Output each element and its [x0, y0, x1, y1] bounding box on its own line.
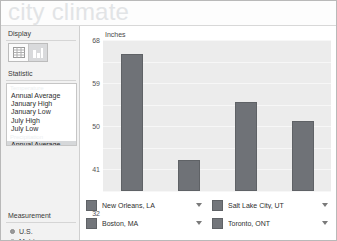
plot-region: 685950413223145 — [103, 40, 331, 192]
legend-label: Boston, MA — [102, 220, 196, 227]
legend-label: New Orleans, LA — [102, 202, 196, 209]
y-axis-tick-label: 68 — [92, 40, 100, 41]
radio-us[interactable]: U.S. — [10, 228, 33, 235]
list-group-header: Temperature — [7, 84, 76, 92]
gridline: 68 — [103, 40, 331, 41]
chevron-down-icon[interactable] — [322, 203, 328, 207]
statistic-list[interactable]: Temperature Annual Average January High … — [6, 83, 77, 146]
bar[interactable] — [292, 121, 314, 191]
bar[interactable] — [178, 160, 200, 191]
display-section-label: Display — [8, 30, 31, 37]
chevron-down-icon[interactable] — [196, 221, 202, 225]
statistic-divider — [6, 80, 76, 81]
legend-swatch-icon — [86, 200, 97, 211]
y-axis-tick-label: 41 — [92, 169, 100, 170]
list-group-header: Precipitation — [7, 133, 76, 141]
display-divider — [6, 40, 76, 41]
y-axis-title: Inches — [105, 31, 126, 38]
measurement-divider — [6, 222, 76, 223]
bar[interactable] — [235, 102, 257, 191]
legend-item[interactable]: New Orleans, LA — [86, 198, 206, 212]
title-bar: city climate — [1, 1, 337, 26]
table-grid-glyph — [13, 47, 25, 58]
chart-area: Inches 685950413223145 New Orleans, LA B… — [81, 26, 337, 241]
page-title: city climate — [8, 1, 129, 26]
y-axis-tick-label: 59 — [92, 83, 100, 84]
measurement-section-label: Measurement — [8, 212, 51, 219]
list-item[interactable]: July Low — [7, 125, 76, 133]
legend-label: Toronto, ONT — [228, 220, 322, 227]
list-item[interactable]: Annual Average — [7, 92, 76, 100]
sidebar: Display Statisti — [1, 26, 80, 241]
app-window: city climate Display — [0, 0, 337, 241]
list-item[interactable]: January Low — [7, 108, 76, 116]
y-axis-tick-label: 50 — [92, 126, 100, 127]
chevron-down-icon[interactable] — [322, 221, 328, 225]
display-toggle-group[interactable] — [8, 43, 48, 62]
legend-label: Salt Lake City, UT — [228, 202, 322, 209]
table-grid-icon[interactable] — [9, 44, 28, 61]
bar-chart-icon[interactable] — [28, 44, 47, 61]
plot-wrapper: 685950413223145 — [103, 40, 331, 192]
legend-swatch-icon — [212, 218, 223, 229]
radio-dot-icon — [10, 229, 15, 234]
list-item-selected[interactable]: Annual Average — [7, 141, 76, 146]
legend-swatch-icon — [86, 218, 97, 229]
statistic-section-label: Statistic — [8, 70, 33, 77]
legend-item[interactable]: Salt Lake City, UT — [212, 198, 332, 212]
chevron-down-icon[interactable] — [196, 203, 202, 207]
list-item[interactable]: July High — [7, 117, 76, 125]
list-item[interactable]: January High — [7, 100, 76, 108]
gridline: 5 — [103, 191, 331, 192]
legend-swatch-icon — [212, 200, 223, 211]
bar-chart-glyph — [32, 47, 44, 58]
legend-item[interactable]: Boston, MA — [86, 216, 206, 230]
bar[interactable] — [121, 54, 143, 191]
legend-item[interactable]: Toronto, ONT — [212, 216, 332, 230]
radio-label: U.S. — [19, 228, 33, 235]
legend: New Orleans, LA Boston, MA Salt Lake Cit… — [86, 198, 334, 236]
